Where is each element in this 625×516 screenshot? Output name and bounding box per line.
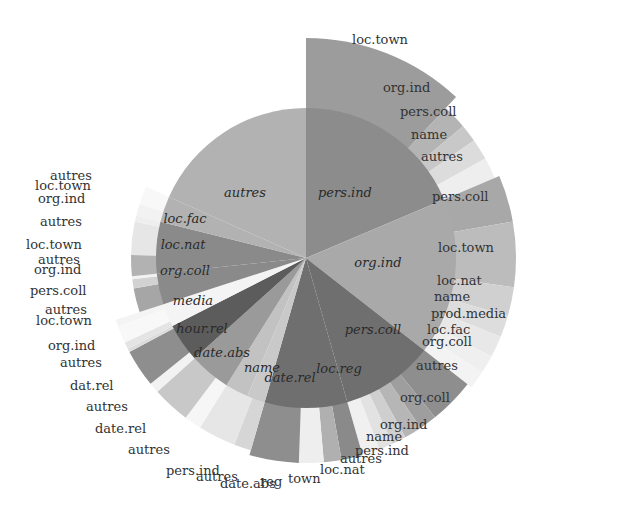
outer-label: autres [45, 302, 87, 317]
outer-label: pers.coll [432, 189, 488, 204]
outer-label: autres [421, 149, 463, 164]
outer-label: prod.media [431, 306, 506, 321]
outer-label: loc.town [352, 32, 409, 47]
outer-label: pers.coll [30, 283, 86, 298]
outer-label: org.coll [400, 390, 450, 405]
inner-label: autres [224, 185, 266, 200]
inner-label: loc.reg [316, 361, 362, 376]
outer-label: autres [40, 214, 82, 229]
outer-label: dat.rel [70, 378, 114, 393]
outer-label: autres [416, 358, 458, 373]
outer-label: name [366, 429, 402, 444]
outer-label: autres [60, 355, 102, 370]
inner-label: pers.coll [345, 322, 401, 337]
outer-label: autres [50, 168, 92, 183]
inner-label: org.ind [354, 255, 401, 270]
outer-label: autres [86, 399, 128, 414]
outer-label: autres [128, 442, 170, 457]
outer-label: org.coll [422, 334, 472, 349]
outer-label: autres [38, 252, 80, 267]
inner-label: loc.nat [161, 237, 207, 252]
outer-label: name [411, 127, 447, 142]
outer-label: town [288, 471, 321, 486]
inner-label: hour.rel [176, 321, 228, 336]
outer-label: loc.town [438, 240, 495, 255]
inner-label: name [244, 360, 280, 375]
outer-label: org.ind [383, 80, 430, 95]
outer-label: pers.ind [166, 463, 220, 478]
outer-label: loc.nat [437, 273, 483, 288]
inner-label: media [173, 293, 213, 308]
sunburst-chart: loc.townorg.indpers.collnameautrespers.c… [0, 0, 625, 516]
inner-ring [156, 108, 456, 408]
outer-label: name [434, 289, 470, 304]
outer-segment-loc-nat-loc-town [131, 255, 159, 276]
outer-label: loc.town [26, 237, 83, 252]
inner-label: loc.fac [163, 211, 207, 226]
inner-label: org.coll [160, 263, 210, 278]
inner-label: pers.ind [318, 185, 372, 200]
outer-label: org.ind [48, 338, 95, 353]
outer-label: org.ind [38, 191, 85, 206]
outer-label: date.rel [95, 421, 146, 436]
outer-label: loc.nat [320, 462, 366, 477]
outer-label: pers.coll [400, 104, 456, 119]
inner-label: date.abs [194, 345, 250, 360]
